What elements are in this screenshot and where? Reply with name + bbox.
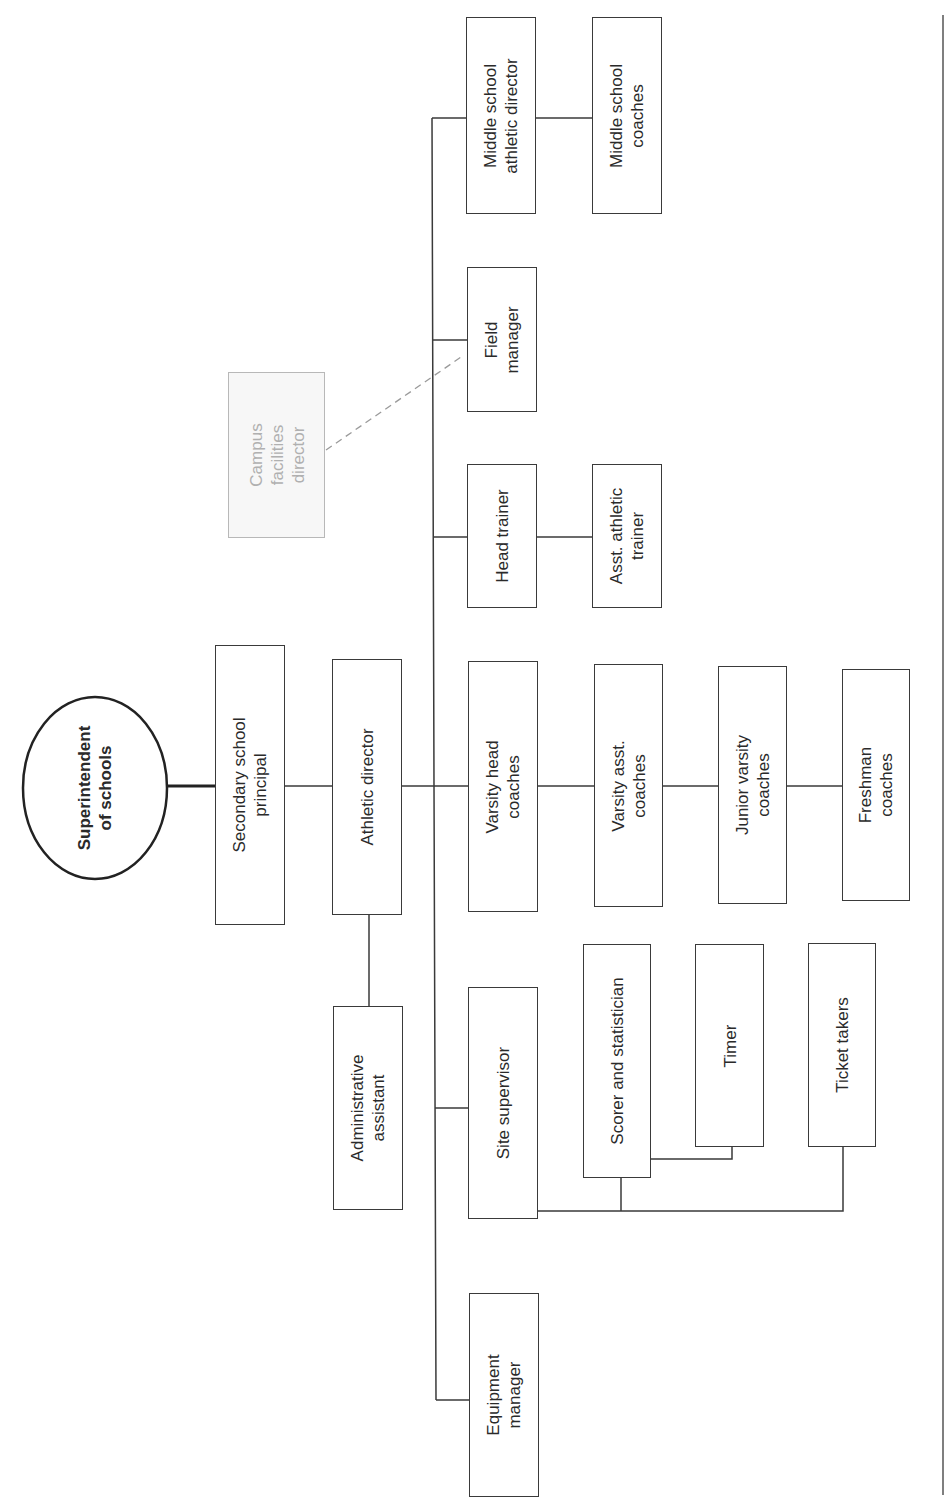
node-varsity-head-coaches: Varsity headcoaches bbox=[468, 661, 538, 912]
node-timer: Timer bbox=[695, 944, 764, 1147]
node-jv-coaches: Junior varsitycoaches bbox=[718, 666, 787, 904]
node-ms-athletic-director: Middle schoolathletic director bbox=[466, 17, 536, 214]
node-athletic-director: Athletic director bbox=[332, 659, 402, 915]
node-site-supervisor: Site supervisor bbox=[468, 987, 538, 1219]
node-ticket-takers: Ticket takers bbox=[808, 943, 876, 1147]
node-head-trainer: Head trainer bbox=[467, 464, 537, 608]
node-ms-coaches: Middle schoolcoaches bbox=[592, 17, 662, 214]
node-field-manager: Fieldmanager bbox=[467, 267, 537, 412]
node-equipment-manager: Equipmentmanager bbox=[469, 1293, 539, 1497]
node-varsity-asst-coaches: Varsity asst.coaches bbox=[594, 664, 663, 907]
node-secondary-principal: Secondary schoolprincipal bbox=[215, 645, 285, 925]
node-admin-assistant: Administrativeassistant bbox=[333, 1006, 403, 1210]
node-campus-facilities-director: Campusfacilitiesdirector bbox=[228, 372, 325, 538]
node-freshman-coaches: Freshmancoaches bbox=[842, 669, 910, 901]
node-superintendent: Superintendent of schools bbox=[74, 726, 116, 851]
dotted-relationship-line bbox=[326, 355, 464, 450]
org-chart: Superintendent of schools Secondary scho… bbox=[0, 0, 951, 1505]
node-asst-athletic-trainer: Asst. athletictrainer bbox=[592, 464, 662, 608]
node-scorer-statistician: Scorer and statistician bbox=[583, 944, 651, 1178]
